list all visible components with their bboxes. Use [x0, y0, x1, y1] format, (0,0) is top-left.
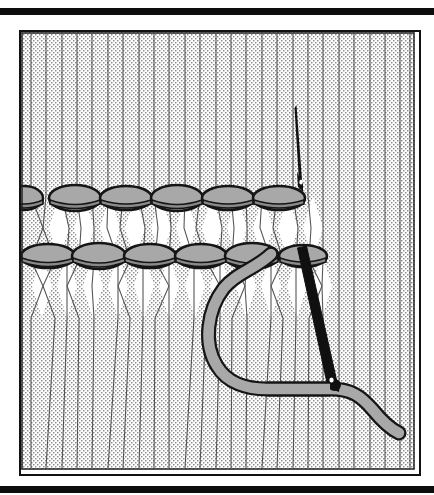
knot-oval	[72, 243, 126, 269]
lower-knot-row	[21, 243, 279, 269]
knot-oval	[202, 186, 254, 210]
knot-oval	[21, 244, 75, 268]
knot-oval	[253, 186, 305, 210]
illustration-page	[0, 0, 434, 495]
top-rule	[0, 8, 434, 15]
upper-knot-row	[21, 185, 305, 211]
knot-oval	[151, 185, 203, 211]
knot-oval	[175, 244, 227, 268]
bottom-rule	[0, 486, 434, 493]
knot-oval	[100, 186, 152, 210]
fabric-layer	[21, 32, 415, 470]
figure-frame	[19, 30, 421, 476]
knot-oval	[124, 244, 176, 268]
stitch-diagram	[21, 32, 415, 470]
knot-oval	[49, 185, 101, 211]
